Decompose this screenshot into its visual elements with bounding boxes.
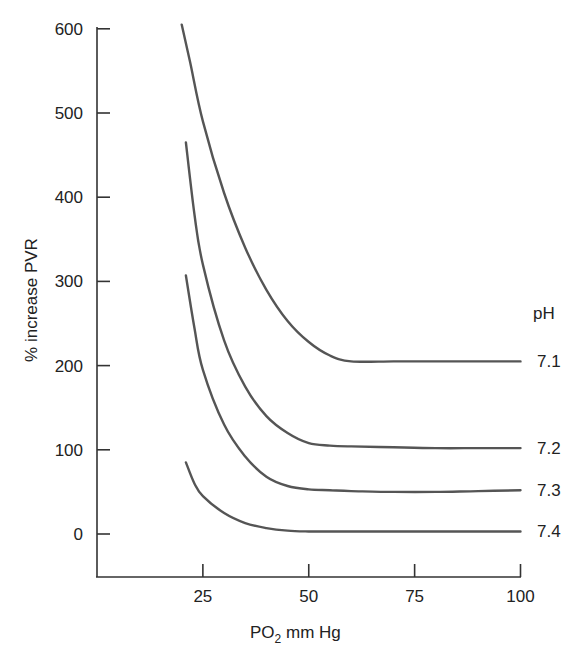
y-tick-label: 500 <box>55 104 83 123</box>
x-tick-label: 100 <box>506 587 534 606</box>
y-axis-ticks: 0100200300400500600 <box>55 20 110 544</box>
curve-label-ph-7-3: 7.3 <box>537 481 561 500</box>
curve-label-ph-7-4: 7.4 <box>537 522 561 541</box>
x-axis-title-main: PO <box>250 623 275 642</box>
ph-curve-labels: 7.17.27.37.4 <box>537 352 561 541</box>
curve-ph-7-2 <box>186 143 521 449</box>
curve-label-ph-7-1: 7.1 <box>537 352 561 371</box>
x-tick-label: 50 <box>299 587 318 606</box>
y-axis-title: % increase PVR <box>22 238 41 362</box>
y-tick-label: 0 <box>74 525 83 544</box>
x-axis: 255075100 <box>96 564 535 606</box>
y-axis: 0100200300400500600 <box>55 20 110 577</box>
y-tick-label: 400 <box>55 188 83 207</box>
curve-ph-7-4 <box>186 462 521 531</box>
legend-title-ph: pH <box>533 304 555 323</box>
ph-curves <box>182 25 521 532</box>
x-axis-title-rest: mm Hg <box>281 623 341 642</box>
x-axis-title: PO2 mm Hg <box>250 623 341 646</box>
curve-ph-7-1 <box>182 25 521 362</box>
x-tick-label: 25 <box>193 587 212 606</box>
x-tick-label: 75 <box>405 587 424 606</box>
x-axis-ticks: 255075100 <box>193 564 534 606</box>
y-tick-label: 200 <box>55 357 83 376</box>
pvr-po2-chart: 0100200300400500600 255075100 % increase… <box>0 0 585 653</box>
y-tick-label: 300 <box>55 272 83 291</box>
curve-label-ph-7-2: 7.2 <box>537 439 561 458</box>
y-tick-label: 600 <box>55 20 83 39</box>
curve-ph-7-3 <box>186 276 521 492</box>
y-tick-label: 100 <box>55 441 83 460</box>
